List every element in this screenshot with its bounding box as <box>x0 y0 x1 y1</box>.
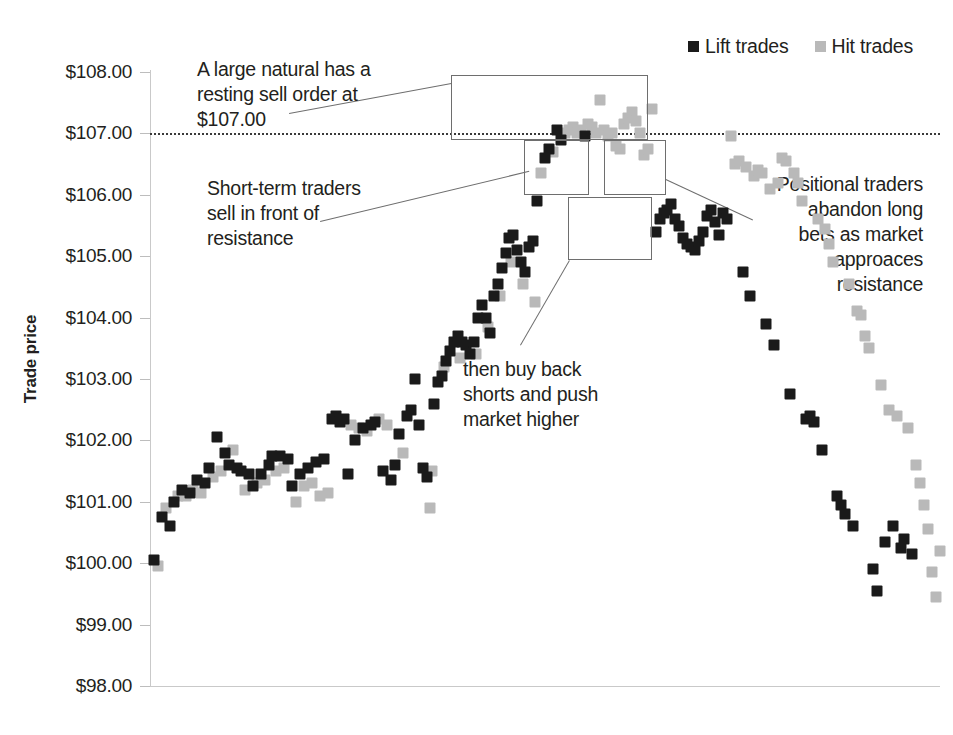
data-point-lift <box>287 481 298 492</box>
annotation-positional-line5: resistance <box>683 272 923 297</box>
box-short-term-sell <box>524 140 589 195</box>
data-point-hit <box>425 502 436 513</box>
data-point-lift <box>488 291 499 302</box>
data-point-lift <box>184 487 195 498</box>
annotation-resting-order-line1: A large natural has a <box>197 57 447 82</box>
data-point-hit <box>923 524 934 535</box>
annotation-buy-back-line2: shorts and push <box>463 382 693 407</box>
data-point-lift <box>713 229 724 240</box>
data-point-hit <box>820 223 831 234</box>
data-point-hit <box>530 297 541 308</box>
data-point-lift <box>405 404 416 415</box>
data-point-lift <box>212 432 223 443</box>
data-point-lift <box>393 429 404 440</box>
data-point-lift <box>437 370 448 381</box>
annotation-buy-back-line3: market higher <box>463 407 693 432</box>
data-point-lift <box>867 564 878 575</box>
annotation-short-term: Short-term traders sell in front of resi… <box>207 176 457 251</box>
data-point-lift <box>492 278 503 289</box>
data-point-hit <box>875 380 886 391</box>
data-point-hit <box>911 459 922 470</box>
data-point-lift <box>721 214 732 225</box>
data-point-lift <box>283 453 294 464</box>
data-point-hit <box>931 591 942 602</box>
annotation-short-term-line2: sell in front of <box>207 201 457 226</box>
data-point-lift <box>737 266 748 277</box>
data-point-lift <box>385 475 396 486</box>
data-point-hit <box>856 309 867 320</box>
box-positional-abandon <box>604 140 666 195</box>
data-point-lift <box>421 472 432 483</box>
data-point-lift <box>468 337 479 348</box>
data-point-lift <box>666 199 677 210</box>
data-point-lift <box>318 453 329 464</box>
data-point-lift <box>247 481 258 492</box>
data-point-lift <box>476 300 487 311</box>
data-point-hit <box>891 410 902 421</box>
data-point-hit <box>306 478 317 489</box>
data-point-lift <box>907 548 918 559</box>
data-point-lift <box>745 291 756 302</box>
annotation-buy-back-line1: then buy back <box>463 357 693 382</box>
data-point-lift <box>164 521 175 532</box>
data-point-hit <box>773 177 784 188</box>
annotation-resting-order: A large natural has a resting sell order… <box>197 57 447 132</box>
data-point-hit <box>757 168 768 179</box>
data-point-hit <box>844 278 855 289</box>
data-point-lift <box>200 478 211 489</box>
data-point-hit <box>518 278 529 289</box>
data-point-lift <box>674 220 685 231</box>
data-point-lift <box>698 226 709 237</box>
data-point-hit <box>919 499 930 510</box>
data-point-hit <box>792 177 803 188</box>
trade-price-scatter-chart: Lift trades Hit trades Trade price $108.… <box>0 0 953 735</box>
data-point-lift <box>848 521 859 532</box>
data-point-lift <box>389 459 400 470</box>
data-point-lift <box>243 469 254 480</box>
data-point-lift <box>338 413 349 424</box>
data-point-lift <box>879 536 890 547</box>
data-point-lift <box>464 349 475 360</box>
annotation-resting-order-line3: $107.00 <box>197 107 447 132</box>
data-point-lift <box>168 496 179 507</box>
data-point-lift <box>409 374 420 385</box>
data-point-lift <box>500 248 511 259</box>
data-point-lift <box>342 469 353 480</box>
data-point-lift <box>508 229 519 240</box>
data-point-lift <box>899 533 910 544</box>
data-point-lift <box>532 195 543 206</box>
data-point-hit <box>796 195 807 206</box>
data-point-lift <box>784 389 795 400</box>
data-point-lift <box>484 327 495 338</box>
data-point-lift <box>871 585 882 596</box>
data-point-hit <box>828 257 839 268</box>
data-point-hit <box>725 131 736 142</box>
data-point-lift <box>413 420 424 431</box>
data-point-lift <box>520 266 531 277</box>
data-point-hit <box>397 447 408 458</box>
data-point-lift <box>350 435 361 446</box>
data-point-hit <box>322 487 333 498</box>
data-point-lift <box>512 245 523 256</box>
data-point-hit <box>863 343 874 354</box>
annotation-resting-order-line2: resting sell order at <box>197 82 447 107</box>
box-buy-back-shorts <box>568 197 652 260</box>
data-point-hit <box>382 420 393 431</box>
data-point-lift <box>480 312 491 323</box>
annotation-short-term-line3: resistance <box>207 226 457 251</box>
data-point-hit <box>927 567 938 578</box>
data-point-lift <box>204 463 215 474</box>
data-point-hit <box>935 545 946 556</box>
data-point-lift <box>370 416 381 427</box>
data-point-lift <box>705 205 716 216</box>
box-resting-order <box>451 75 648 140</box>
annotation-positional-line4: approaces <box>683 247 923 272</box>
data-point-lift <box>769 340 780 351</box>
data-point-lift <box>148 555 159 566</box>
data-point-hit <box>903 423 914 434</box>
data-point-lift <box>808 416 819 427</box>
annotation-buy-back: then buy back shorts and push market hig… <box>463 357 693 432</box>
data-point-hit <box>291 496 302 507</box>
annotation-short-term-line1: Short-term traders <box>207 176 457 201</box>
data-point-lift <box>220 447 231 458</box>
